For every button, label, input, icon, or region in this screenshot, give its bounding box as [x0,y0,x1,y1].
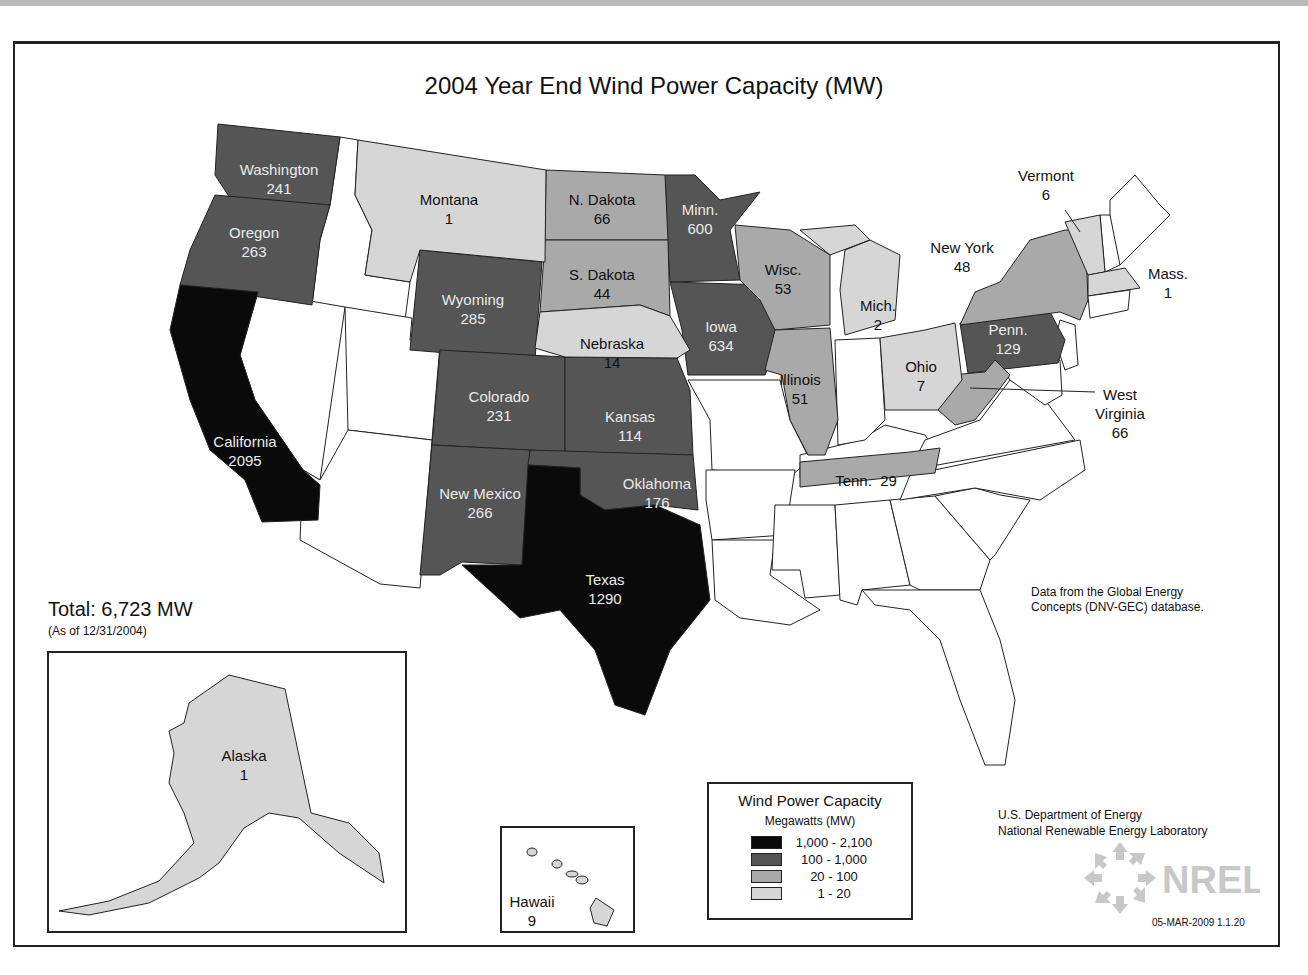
legend-swatch [751,836,782,849]
label-new-york: New York48 [930,238,993,276]
label-illinois: Illinois51 [779,370,821,408]
label-colorado: Colorado231 [469,387,530,425]
as-of-date: (As of 12/31/2004) [48,624,147,638]
label-vermont: Vermont6 [1018,166,1074,204]
legend-item: 1,000 - 2,100 [751,834,911,851]
nrel-logo: NREL [1080,838,1260,922]
label-north-dakota: N. Dakota66 [569,190,636,228]
legend-item: 100 - 1,000 [751,851,911,868]
label-west-virginia: WestVirginia66 [1095,385,1145,442]
legend-swatch [751,870,782,883]
total-capacity: Total: 6,723 MW [48,598,193,621]
legend-swatch [751,887,782,900]
label-new-mexico: New Mexico266 [439,484,521,522]
label-alaska: Alaska1 [221,746,266,784]
label-texas: Texas1290 [585,570,624,608]
label-oregon: Oregon263 [229,223,279,261]
label-pennsylvania: Penn.129 [988,320,1027,358]
legend-item: 1 - 20 [751,885,911,902]
legend-swatch [751,853,782,866]
label-michigan: Mich.2 [860,296,896,334]
label-washington: Washington241 [240,160,319,198]
label-ohio: Ohio7 [905,357,937,395]
legend: Wind Power Capacity Megawatts (MW) 1,000… [707,782,913,920]
label-wisconsin: Wisc.53 [765,260,802,298]
legend-subtitle: Megawatts (MW) [709,814,911,828]
label-iowa: Iowa634 [705,317,737,355]
state-florida [862,590,1015,765]
label-hawaii: Hawaii9 [509,892,554,930]
label-oklahoma: Oklahoma176 [623,474,691,512]
label-minnesota: Minn.600 [682,200,719,238]
alaska-shape [49,653,405,931]
credit-text: U.S. Department of Energy National Renew… [998,807,1207,839]
version-stamp: 05-MAR-2009 1.1.20 [1152,917,1245,928]
legend-title: Wind Power Capacity [709,792,911,809]
state-maine [1110,175,1170,265]
label-kansas: Kansas114 [605,407,655,445]
label-tennessee: Tenn. 29 [835,471,897,490]
nrel-logo-text: NREL [1162,859,1260,901]
label-wyoming: Wyoming285 [442,290,504,328]
label-montana: Montana1 [420,190,478,228]
hawaii-inset: Hawaii9 [500,826,635,933]
legend-item: 20 - 100 [751,868,911,885]
alaska-inset: Alaska1 [47,651,407,933]
label-california: California2095 [213,432,276,470]
label-massachusetts: Mass.1 [1148,264,1188,302]
label-nebraska: Nebraska14 [580,334,644,372]
data-source-note: Data from the Global Energy Concepts (DN… [1031,585,1204,615]
label-south-dakota: S. Dakota44 [569,265,635,303]
